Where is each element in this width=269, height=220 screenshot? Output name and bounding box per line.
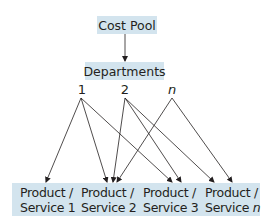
arrow-n-psn	[172, 98, 232, 182]
arrow-1-ps3	[81, 98, 172, 182]
arrow-2-psn	[125, 98, 214, 182]
arrows-layer	[0, 0, 269, 220]
arrow-1-ps1	[46, 98, 81, 182]
arrow-n-ps2	[117, 98, 172, 182]
arrow-2-ps2	[113, 98, 125, 182]
arrow-1-ps2	[81, 98, 107, 182]
arrow-2-ps3	[125, 98, 181, 182]
